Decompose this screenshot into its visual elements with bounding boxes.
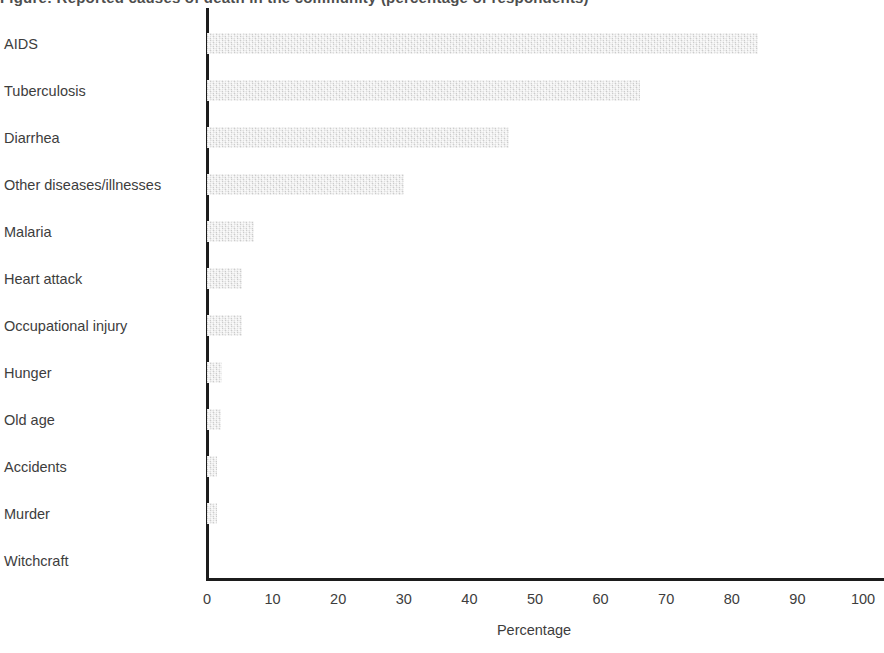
category-label: Hunger bbox=[4, 365, 198, 381]
category-label: Old age bbox=[4, 412, 198, 428]
category-label: Occupational injury bbox=[4, 318, 198, 334]
bar-row bbox=[207, 80, 640, 101]
bar bbox=[207, 362, 222, 383]
bar bbox=[207, 409, 221, 430]
category-label: Other diseases/illnesses bbox=[4, 177, 198, 193]
x-tick-label: 60 bbox=[571, 589, 631, 609]
category-label: Accidents bbox=[4, 459, 198, 475]
bar bbox=[207, 503, 217, 524]
bar bbox=[207, 315, 242, 336]
bar-chart-figure: Figure: Reported causes of death in the … bbox=[0, 0, 884, 653]
bar-row bbox=[207, 315, 242, 336]
bar bbox=[207, 268, 242, 289]
category-label: Diarrhea bbox=[4, 130, 198, 146]
bar bbox=[207, 80, 640, 101]
x-tick-label: 50 bbox=[505, 589, 565, 609]
bar bbox=[207, 33, 758, 54]
x-tick-label: 70 bbox=[636, 589, 696, 609]
category-axis-labels: AIDSTuberculosisDiarrheaOther diseases/i… bbox=[0, 8, 198, 581]
x-tick-label: 40 bbox=[439, 589, 499, 609]
category-label: Murder bbox=[4, 506, 198, 522]
x-axis-title: Percentage bbox=[206, 622, 862, 638]
x-tick-label: 30 bbox=[374, 589, 434, 609]
x-tick-label: 20 bbox=[308, 589, 368, 609]
category-label: Heart attack bbox=[4, 271, 198, 287]
x-tick-label: 90 bbox=[767, 589, 827, 609]
bar-row bbox=[207, 456, 217, 477]
bar bbox=[207, 174, 404, 195]
bar bbox=[207, 456, 217, 477]
clipped-figure-title: Figure: Reported causes of death in the … bbox=[0, 0, 884, 8]
category-label: Malaria bbox=[4, 224, 198, 240]
bar-row bbox=[207, 33, 758, 54]
x-tick-label: 0 bbox=[177, 589, 237, 609]
x-axis-line bbox=[206, 578, 884, 581]
plot-area bbox=[206, 8, 884, 581]
bar-row bbox=[207, 127, 509, 148]
figure-title-text: Figure: Reported causes of death in the … bbox=[0, 0, 884, 6]
x-tick-label: 100 bbox=[833, 589, 884, 609]
bar-row bbox=[207, 268, 242, 289]
bar-row bbox=[207, 409, 221, 430]
bar-row bbox=[207, 362, 222, 383]
bar bbox=[207, 221, 254, 242]
bar bbox=[207, 127, 509, 148]
x-axis-tick-labels: 0102030405060708090100 bbox=[0, 589, 884, 611]
bar-row bbox=[207, 221, 254, 242]
x-tick-label: 80 bbox=[702, 589, 762, 609]
bar-row bbox=[207, 503, 217, 524]
category-label: AIDS bbox=[4, 36, 198, 52]
category-label: Tuberculosis bbox=[4, 83, 198, 99]
category-label: Witchcraft bbox=[4, 553, 198, 569]
bar-row bbox=[207, 174, 404, 195]
x-tick-label: 10 bbox=[243, 589, 303, 609]
